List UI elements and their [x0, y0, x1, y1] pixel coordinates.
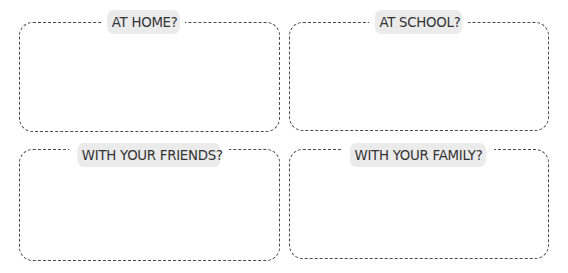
box-label-with-friends: WITH YOUR FRIENDS? [77, 143, 221, 167]
box-label-with-family: WITH YOUR FAMILY? [350, 143, 486, 167]
answer-box-at-school[interactable] [289, 22, 549, 131]
answer-field-with-family[interactable] [298, 164, 540, 250]
answer-box-at-home[interactable] [19, 22, 280, 132]
box-label-at-home: AT HOME? [107, 10, 180, 34]
answer-field-with-friends[interactable] [28, 164, 271, 252]
box-label-at-school: AT SCHOOL? [375, 10, 462, 34]
answer-field-at-school[interactable] [298, 37, 540, 122]
answer-field-at-home[interactable] [28, 37, 271, 123]
